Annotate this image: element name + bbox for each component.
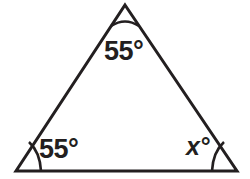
apex-angle-label: 55°	[104, 38, 143, 65]
bottom-left-angle-label: 55°	[39, 136, 78, 163]
triangle-diagram-canvas	[0, 0, 250, 179]
geometry-figure: 55° 55° x°	[0, 0, 250, 179]
bottom-right-angle-label: x°	[186, 134, 209, 159]
bottom-right-angle-arc-icon	[212, 142, 224, 171]
